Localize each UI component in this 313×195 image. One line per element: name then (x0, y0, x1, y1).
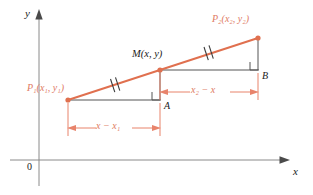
x-axis-arrowhead (280, 156, 291, 163)
congruence-ticks-segment-mp2 (204, 45, 213, 60)
y-axis-arrowhead (35, 9, 42, 20)
dimension-label-upper: x₂ − x (191, 85, 215, 95)
point-label-p1: P₁(x₁, y₁) (27, 83, 64, 93)
point-label-b: B (262, 71, 268, 81)
point-dot-p2 (255, 35, 260, 40)
point-dot-p1 (65, 97, 70, 102)
point-label-midpoint: M(x, y) (132, 49, 162, 60)
axis-label-y: y (25, 8, 30, 19)
midpoint-diagram: y x 0 P₂(x₂, y₂) P₁(x₁, y₁) M(x, y) A B … (0, 0, 313, 195)
diagram-canvas (0, 0, 313, 195)
axes-group (10, 16, 283, 186)
right-angle-marker-b (250, 62, 258, 70)
origin-label: 0 (27, 162, 32, 172)
dimension-label-lower: x − x₁ (96, 121, 120, 131)
point-dot-m (157, 67, 162, 72)
point-label-a: A (164, 101, 170, 111)
right-angle-marker-a (152, 92, 160, 100)
axis-label-x: x (293, 166, 298, 177)
point-label-p2: P₂(x₂, y₂) (212, 14, 249, 24)
